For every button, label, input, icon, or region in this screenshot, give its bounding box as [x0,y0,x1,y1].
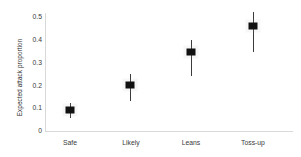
x-tick-label-likely: Likely [101,140,161,147]
x-axis-line [45,131,293,132]
data-point-safe [66,107,75,114]
data-point-toss-up [249,23,258,30]
y-axis-title: Expected attack proportion [16,22,23,134]
y-tick-label-0.1: 0.1 [26,105,42,112]
data-point-likely [126,82,135,89]
x-tick-label-leans: Leans [161,140,221,147]
y-tick-label-0: 0 [26,128,42,135]
y-tick-label-0.5: 0.5 [26,14,42,21]
data-point-leans [187,49,196,56]
plot-area: Expected attack proportion 0.5 0.4 0.3 0… [0,0,301,157]
x-tick-label-safe: Safe [40,140,100,147]
y-tick-label-0.4: 0.4 [26,37,42,44]
y-axis-line [45,13,46,132]
chart-figure: Expected attack proportion 0.5 0.4 0.3 0… [0,0,301,157]
x-tick-label-tossup: Toss-up [223,140,283,147]
y-tick-label-0.3: 0.3 [26,60,42,67]
y-tick-label-0.2: 0.2 [26,83,42,90]
